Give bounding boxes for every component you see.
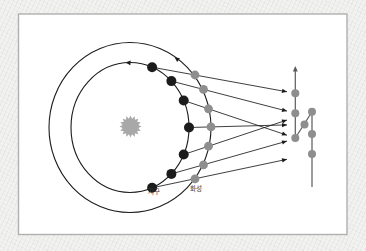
earth-dot xyxy=(166,169,176,179)
mars-dot xyxy=(199,161,208,170)
mars-dot xyxy=(204,104,213,113)
earth-dot xyxy=(166,76,176,86)
earth-dot xyxy=(179,96,189,106)
mars-dot xyxy=(191,71,200,80)
apparent-position-dot xyxy=(291,89,299,97)
apparent-position-dot xyxy=(308,150,316,158)
mars-orbit-label: 화성 xyxy=(190,184,202,193)
mars-dot xyxy=(191,175,200,184)
sun-icon xyxy=(120,116,142,138)
apparent-position-dot xyxy=(308,130,316,138)
apparent-position-dot xyxy=(301,121,309,129)
earth-dot xyxy=(184,123,194,133)
mars-dot xyxy=(199,85,208,94)
page-background: 지구 화성 xyxy=(0,0,366,251)
mars-dot xyxy=(204,142,213,151)
mars-dot xyxy=(207,123,216,132)
earth-dot xyxy=(147,62,157,72)
retrograde-motion-diagram: 지구 화성 xyxy=(0,0,366,251)
apparent-position-dot xyxy=(291,134,299,142)
panel-background xyxy=(19,14,348,235)
earth-dot xyxy=(179,150,189,160)
earth-orbit-label: 지구 xyxy=(148,187,160,196)
apparent-position-dot xyxy=(291,109,299,117)
apparent-position-dot xyxy=(308,108,316,116)
